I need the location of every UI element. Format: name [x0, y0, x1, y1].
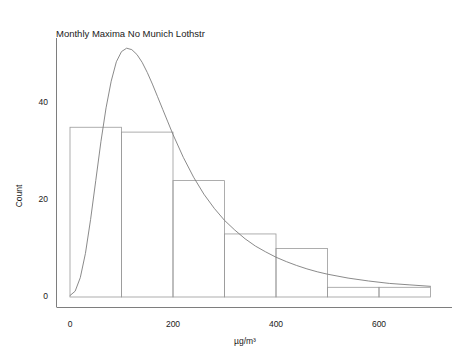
histogram-bar [122, 132, 174, 297]
histogram-bar [379, 287, 431, 297]
x-tick-label-600: 600 [372, 319, 386, 329]
histogram-bars [70, 127, 431, 297]
histogram-bar [225, 234, 277, 297]
x-tick-label-400: 400 [269, 319, 283, 329]
y-tick-label-20: 20 [39, 194, 49, 204]
y-axis-title: Count [14, 184, 24, 207]
y-tick-label-0: 0 [43, 291, 48, 301]
histogram-bar [173, 181, 225, 297]
histogram-chart: Monthly Maxima No Munich Lothstr 40 20 0… [0, 0, 471, 358]
histogram-bar [70, 127, 122, 297]
chart-title: Monthly Maxima No Munich Lothstr [56, 28, 205, 39]
histogram-bar [328, 287, 380, 297]
x-tick-label-200: 200 [166, 319, 180, 329]
x-tick-label-0: 0 [68, 319, 73, 329]
x-axis-title: µg/m³ [234, 336, 256, 346]
chart-figure: Monthly Maxima No Munich Lothstr 40 20 0… [0, 0, 471, 358]
y-tick-label-40: 40 [39, 97, 49, 107]
fitted-density-curve [70, 48, 431, 295]
